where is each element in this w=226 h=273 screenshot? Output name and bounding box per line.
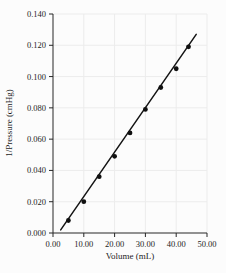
y-axis-title: 1/Pressure (cmHg)	[4, 89, 14, 157]
x-tick-label: 10.00	[74, 239, 93, 249]
data-point	[143, 107, 148, 112]
data-point	[66, 218, 71, 223]
data-point	[186, 44, 191, 49]
data-point	[112, 154, 117, 159]
y-tick-label: 0.020	[27, 197, 46, 207]
x-tick-label: 0.00	[46, 239, 61, 249]
x-tick-label: 20.00	[105, 239, 124, 249]
data-point	[128, 130, 133, 135]
x-tick-label: 40.00	[167, 239, 186, 249]
y-tick-label: 0.000	[27, 228, 46, 238]
y-tick-label: 0.140	[27, 9, 46, 19]
x-tick-label: 30.00	[136, 239, 155, 249]
x-tick-label: 50.00	[197, 239, 216, 249]
data-point	[174, 66, 179, 71]
y-tick-label: 0.120	[27, 40, 46, 50]
y-tick-label: 0.060	[27, 134, 46, 144]
x-axis-title: Volume (mL)	[106, 251, 155, 261]
data-point	[97, 174, 102, 179]
data-point	[158, 85, 163, 90]
data-point	[81, 199, 86, 204]
y-tick-label: 0.100	[27, 72, 46, 82]
boyles-law-figure: 0.0010.0020.0030.0040.0050.000.0000.0200…	[0, 0, 226, 273]
plot-area: 0.0010.0020.0030.0040.0050.000.0000.0200…	[0, 0, 226, 273]
y-tick-label: 0.080	[27, 103, 46, 113]
y-tick-label: 0.040	[27, 165, 46, 175]
